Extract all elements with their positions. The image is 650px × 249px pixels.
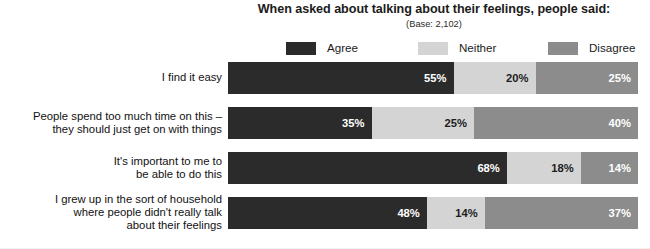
bar-segment-neither[interactable]: 14% bbox=[427, 197, 485, 229]
bar-segment-agree[interactable]: 48% bbox=[228, 197, 427, 229]
chart-legend: AgreeNeitherDisagree bbox=[286, 40, 646, 56]
bar-value-label: 25% bbox=[609, 62, 631, 94]
chart-row: I grew up in the sort of household where… bbox=[0, 197, 650, 242]
chart-header: When asked about talking about their fee… bbox=[228, 2, 640, 30]
category-label: I grew up in the sort of household where… bbox=[0, 193, 222, 233]
stacked-bar: 48%14%37% bbox=[228, 197, 638, 229]
bar-value-label: 14% bbox=[609, 152, 631, 184]
category-label: I find it easy bbox=[0, 71, 222, 84]
bar-segment-neither[interactable]: 20% bbox=[454, 62, 536, 94]
legend-item-agree[interactable]: Agree bbox=[286, 40, 358, 56]
bar-value-label: 25% bbox=[445, 107, 467, 139]
legend-label: Agree bbox=[327, 40, 358, 56]
category-label: People spend too much time on this – the… bbox=[0, 110, 222, 136]
bar-value-label: 35% bbox=[342, 107, 364, 139]
bar-segment-disagree[interactable]: 25% bbox=[536, 62, 639, 94]
legend-swatch-agree-icon bbox=[286, 42, 316, 55]
chart-plot-area: I find it easy55%20%25%People spend too … bbox=[0, 62, 650, 242]
chart-row-inner: It's important to me to be able to do th… bbox=[0, 152, 650, 184]
bar-value-label: 14% bbox=[455, 197, 477, 229]
stacked-bar: 55%20%25% bbox=[228, 62, 638, 94]
bar-segment-neither[interactable]: 18% bbox=[507, 152, 581, 184]
legend-label: Disagree bbox=[589, 40, 635, 56]
bar-value-label: 37% bbox=[609, 197, 631, 229]
legend-label: Neither bbox=[459, 40, 496, 56]
chart-row: It's important to me to be able to do th… bbox=[0, 152, 650, 197]
legend-item-disagree[interactable]: Disagree bbox=[548, 40, 635, 56]
bar-value-label: 55% bbox=[424, 62, 446, 94]
chart-page: { "header": { "title": "When asked about… bbox=[0, 0, 650, 249]
legend-item-neither[interactable]: Neither bbox=[418, 40, 496, 56]
bar-value-label: 68% bbox=[477, 152, 499, 184]
bar-segment-neither[interactable]: 25% bbox=[372, 107, 475, 139]
bar-segment-disagree[interactable]: 40% bbox=[474, 107, 638, 139]
bar-segment-disagree[interactable]: 37% bbox=[485, 197, 638, 229]
chart-row-inner: I find it easy55%20%25% bbox=[0, 62, 650, 94]
bar-value-label: 40% bbox=[609, 107, 631, 139]
bar-segment-agree[interactable]: 55% bbox=[228, 62, 454, 94]
bar-value-label: 48% bbox=[397, 197, 419, 229]
chart-row: People spend too much time on this – the… bbox=[0, 107, 650, 152]
bar-segment-agree[interactable]: 68% bbox=[228, 152, 507, 184]
legend-swatch-disagree-icon bbox=[548, 42, 578, 55]
bar-segment-disagree[interactable]: 14% bbox=[581, 152, 638, 184]
page-title: When asked about talking about their fee… bbox=[228, 2, 640, 17]
stacked-bar: 68%18%14% bbox=[228, 152, 638, 184]
chart-subtitle-base: (Base: 2,102) bbox=[228, 18, 640, 30]
chart-row: I find it easy55%20%25% bbox=[0, 62, 650, 107]
stacked-bar: 35%25%40% bbox=[228, 107, 638, 139]
chart-row-inner: People spend too much time on this – the… bbox=[0, 107, 650, 139]
bar-value-label: 18% bbox=[551, 152, 573, 184]
legend-swatch-neither-icon bbox=[418, 42, 448, 55]
bar-value-label: 20% bbox=[506, 62, 528, 94]
chart-row-inner: I grew up in the sort of household where… bbox=[0, 197, 650, 229]
category-label: It's important to me to be able to do th… bbox=[0, 155, 222, 181]
bar-segment-agree[interactable]: 35% bbox=[228, 107, 372, 139]
